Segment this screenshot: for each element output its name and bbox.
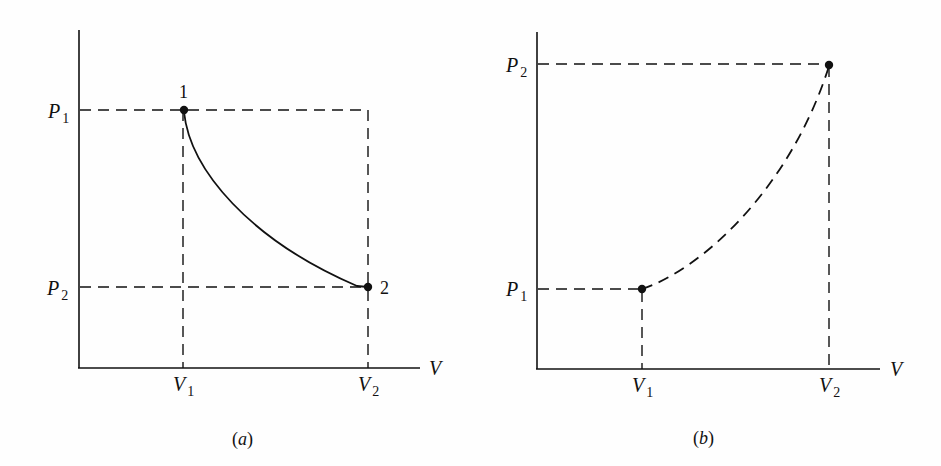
y-tick-p2: P2 bbox=[505, 54, 527, 80]
panel-a: 1 2 P1 P2 V1 V2 V (a) bbox=[46, 30, 444, 450]
state-point-1 bbox=[638, 285, 646, 293]
point-label-2: 2 bbox=[380, 278, 389, 298]
y-tick-p1: P1 bbox=[505, 278, 527, 304]
state-point-2 bbox=[825, 61, 833, 69]
panel-b: P2 P1 V1 V2 V (b) bbox=[505, 32, 905, 449]
y-tick-sub: 1 bbox=[62, 111, 69, 126]
x-tick-main: V bbox=[819, 374, 834, 396]
x-axis-label: V bbox=[890, 358, 905, 380]
y-tick-main: P bbox=[505, 278, 518, 300]
process-curve bbox=[642, 66, 829, 289]
x-tick-main: V bbox=[173, 373, 188, 395]
x-tick-sub: 2 bbox=[372, 384, 379, 399]
panel-caption-a: (a) bbox=[232, 429, 253, 450]
x-tick-main: V bbox=[632, 374, 647, 396]
x-tick-sub: 2 bbox=[833, 385, 840, 400]
point-label-1: 1 bbox=[179, 82, 188, 102]
caption-letter: a bbox=[238, 429, 247, 449]
y-tick-p1: P1 bbox=[47, 100, 69, 126]
y-tick-main: P bbox=[47, 100, 60, 122]
x-tick-v1: V1 bbox=[632, 374, 653, 400]
panel-caption-b: (b) bbox=[693, 428, 714, 449]
x-tick-v2: V2 bbox=[358, 373, 379, 399]
x-tick-sub: 1 bbox=[187, 384, 194, 399]
x-tick-sub: 1 bbox=[646, 385, 653, 400]
x-tick-v1: V1 bbox=[173, 373, 194, 399]
y-tick-p2: P2 bbox=[46, 277, 68, 303]
x-tick-v2: V2 bbox=[819, 374, 840, 400]
y-tick-sub: 2 bbox=[520, 65, 527, 80]
caption-letter: b bbox=[699, 428, 708, 448]
y-tick-main: P bbox=[46, 277, 59, 299]
y-tick-main: P bbox=[505, 54, 518, 76]
y-tick-sub: 2 bbox=[61, 288, 68, 303]
process-curve bbox=[184, 112, 368, 287]
figure: 1 2 P1 P2 V1 V2 V (a) bbox=[0, 0, 941, 466]
pv-diagrams: 1 2 P1 P2 V1 V2 V (a) bbox=[0, 0, 941, 466]
state-point-1 bbox=[180, 106, 188, 114]
x-axis-label: V bbox=[429, 357, 444, 379]
x-tick-main: V bbox=[358, 373, 373, 395]
y-tick-sub: 1 bbox=[520, 289, 527, 304]
state-point-2 bbox=[364, 283, 372, 291]
